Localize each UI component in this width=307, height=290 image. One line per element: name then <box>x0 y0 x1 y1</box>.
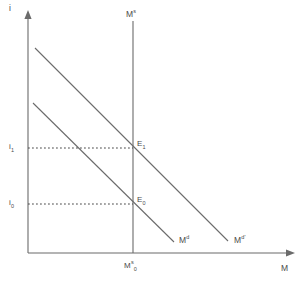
diagram-canvas <box>0 0 307 290</box>
money-demand-curve <box>33 103 174 242</box>
y-axis-label: i <box>9 4 11 13</box>
x-tick-label-ms0: Ms0 <box>124 262 137 270</box>
money-demand-shifted-curve-label: Md' <box>234 236 246 245</box>
y-axis-arrowhead <box>24 10 31 19</box>
money-demand-curve-label: Md <box>179 236 190 245</box>
y-tick-label-i1: i1 <box>9 143 14 151</box>
money-demand-shifted-curve <box>35 48 228 241</box>
y-tick-label-i0: i0 <box>9 199 14 207</box>
money-supply-curve-label: Ms <box>126 10 136 19</box>
x-axis-label: M <box>281 264 288 273</box>
equilibrium-label-e1: E1 <box>137 140 146 148</box>
money-market-diagram: i M i1 i0 Ms0 Ms Md Md' E1 E0 <box>0 0 307 290</box>
x-axis-arrowhead <box>286 249 295 256</box>
equilibrium-label-e0: E0 <box>137 196 146 204</box>
